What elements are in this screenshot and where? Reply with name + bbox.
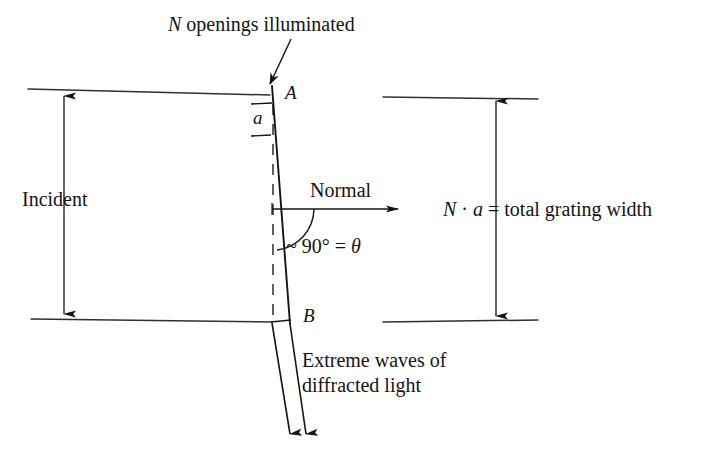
n-openings-illuminated-label: N openings illuminated (168, 14, 355, 34)
grating-width-text: = total grating width (483, 198, 652, 220)
grating-width-top-line (383, 97, 538, 99)
total-grating-width-label: N · a = total grating width (443, 199, 652, 219)
extreme-waves-label: Extreme waves of diffracted light (302, 348, 446, 398)
point-b-tick (271, 320, 291, 322)
slit-spacing-tick-top (251, 103, 272, 104)
theta-symbol: θ (351, 235, 361, 257)
slit-spacing-label: a (253, 108, 263, 127)
incident-top-boundary-line (28, 89, 270, 95)
slit-spacing-tick-bottom (251, 135, 271, 136)
n-openings-pointer-arrow (270, 39, 291, 84)
incident-bottom-boundary-line (31, 319, 272, 322)
point-a-label: A (285, 83, 297, 102)
grating-width-bottom-line (383, 320, 538, 322)
angle-value-text: ~ 90° (286, 235, 330, 257)
n-openings-text: openings illuminated (181, 13, 354, 35)
normal-label: Normal (310, 180, 371, 200)
point-b-label: B (303, 306, 315, 325)
n-symbol: N (168, 13, 181, 35)
dot-operator: · (456, 198, 473, 220)
diffraction-grating-figure: N openings illuminated Incident a A B No… (0, 0, 728, 462)
grating-surface-line-ab (272, 86, 290, 324)
n-symbol-right: N (443, 198, 456, 220)
diffracted-ray-left (272, 323, 290, 434)
diffraction-angle-label: ~ 90° = θ (286, 236, 361, 256)
a-symbol-right: a (473, 198, 483, 220)
incident-label: Incident (22, 189, 88, 209)
angle-equals-text: = (330, 235, 351, 257)
